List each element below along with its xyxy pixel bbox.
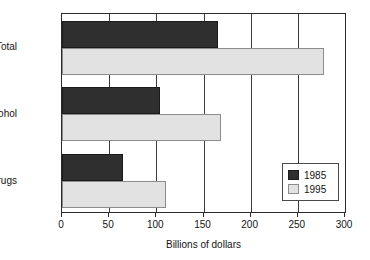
category-label-alcohol: Alcohol <box>0 108 17 119</box>
category-label-total: Total <box>0 41 17 52</box>
bar-drugs-1995 <box>62 181 166 208</box>
legend-swatch-1995 <box>288 184 299 194</box>
bar-total-1985 <box>62 21 218 48</box>
category-label-drugs: Drugs <box>0 175 17 186</box>
x-axis-title: Billions of dollars <box>61 239 346 251</box>
xtick-label-150: 150 <box>183 219 223 231</box>
xtick-label-250: 250 <box>277 219 317 231</box>
legend-label-1995: 1995 <box>304 184 326 195</box>
bar-chart: 1985 1995 Total Alcohol Drugs 0 50 100 1… <box>0 0 370 260</box>
xtick-150 <box>203 213 204 217</box>
legend-item-1985: 1985 <box>288 168 333 182</box>
xtick-250 <box>297 213 298 217</box>
legend-item-1995: 1995 <box>288 182 333 196</box>
xtick-label-300: 300 <box>324 219 364 231</box>
xtick-300 <box>344 213 345 217</box>
xtick-label-50: 50 <box>88 219 128 231</box>
bar-total-1995 <box>62 48 324 75</box>
xtick-label-200: 200 <box>230 219 270 231</box>
xtick-0 <box>61 213 62 217</box>
bar-alcohol-1985 <box>62 87 160 114</box>
bar-alcohol-1995 <box>62 114 221 141</box>
plot-area: 1985 1995 <box>61 13 346 213</box>
chart-legend: 1985 1995 <box>282 163 339 201</box>
bar-group-alcohol <box>62 80 345 147</box>
xtick-200 <box>250 213 251 217</box>
legend-label-1985: 1985 <box>304 170 326 181</box>
bar-drugs-1985 <box>62 154 123 181</box>
xtick-label-100: 100 <box>135 219 175 231</box>
xtick-100 <box>155 213 156 217</box>
xtick-50 <box>108 213 109 217</box>
xtick-label-0: 0 <box>41 219 81 231</box>
bar-group-total <box>62 14 345 80</box>
legend-swatch-1985 <box>288 170 299 180</box>
